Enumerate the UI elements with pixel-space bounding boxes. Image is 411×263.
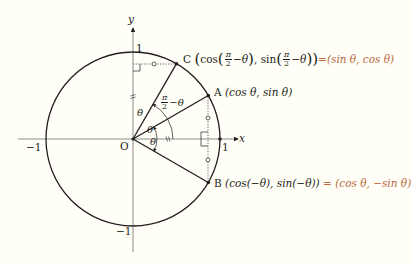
point-b [207, 181, 211, 185]
angle-label-theta-y: θ [137, 108, 143, 118]
equal-mark-icon [152, 62, 156, 66]
point-a [207, 94, 211, 98]
tick-label-y-neg1: −1 [116, 226, 131, 237]
point-a-label: A (cos θ, sin θ) [214, 87, 292, 98]
origin-point [131, 137, 134, 140]
tick-label-x-1: 1 [222, 142, 229, 153]
point-c-result: (sin θ, cos θ) [327, 53, 394, 65]
right-angle-icon [133, 64, 140, 71]
y-axis-label: y [128, 14, 134, 25]
point-c-label: C (cos(π2−θ), sin(π2−θ))=(sin θ, cos θ) [183, 51, 394, 68]
tick-label-x-neg1: −1 [26, 142, 41, 153]
angle-label-complement: π2−θ [160, 94, 184, 111]
point-b-label: B (cos(−θ), sin(−θ)) = (cos θ, −sin θ) [214, 178, 411, 189]
x-axis-label: x [239, 133, 245, 144]
origin-label: O [120, 141, 129, 152]
angle-label-theta-a: θ [147, 125, 153, 135]
tick-label-y-1: 1 [136, 43, 143, 54]
radius-ob [133, 139, 208, 183]
point-b-result: (cos θ, −sin θ) [335, 177, 411, 189]
equal-mark-icon [206, 116, 210, 120]
angle-label-theta-b: θ [150, 137, 156, 147]
point-c [175, 62, 179, 66]
equal-mark-icon [206, 158, 210, 162]
